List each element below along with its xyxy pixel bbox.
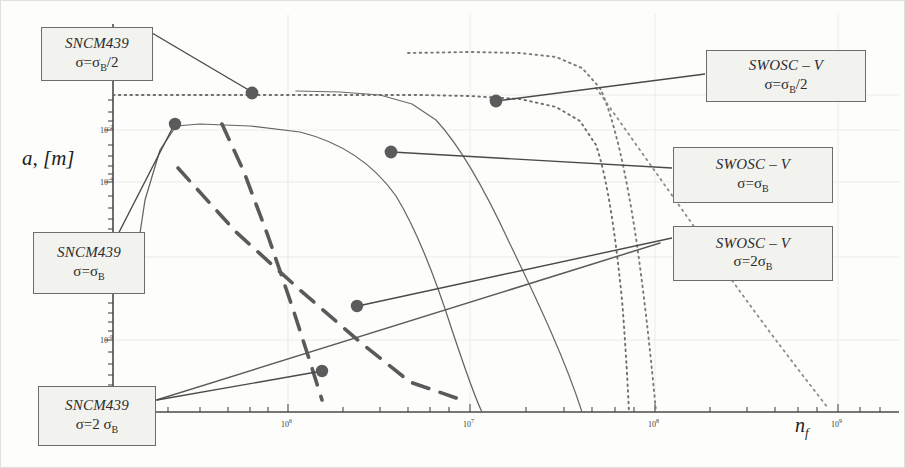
callout-title: SNCM439 bbox=[57, 243, 121, 261]
x-tick-label-1: 106 bbox=[281, 418, 292, 429]
callout-condition: σ=2σB bbox=[734, 252, 773, 273]
curve-dashed-steep bbox=[222, 124, 322, 400]
x-tick-label-2: 107 bbox=[463, 418, 474, 429]
leader-sncm-2 bbox=[157, 371, 322, 400]
callout-sncm439-sigma-b[interactable]: SNCM439 σ=σB bbox=[33, 232, 145, 294]
y-tick-label-3: 10-9 bbox=[100, 334, 113, 345]
callout-sncm439-2sigma-b[interactable]: SNCM439 σ=2 σB bbox=[38, 386, 156, 446]
leader-swosc-2 bbox=[358, 238, 672, 306]
callout-title: SWOSC – V bbox=[716, 155, 790, 173]
callout-title: SNCM439 bbox=[65, 34, 129, 52]
marker-sncm439-1sig bbox=[169, 118, 181, 130]
callout-title: SWOSC – V bbox=[716, 234, 790, 252]
callout-condition: σ=σB bbox=[73, 262, 104, 283]
curve-sncm439-2sig bbox=[150, 243, 660, 402]
curve-swosc-half bbox=[408, 52, 656, 412]
curve-sncm439-1sig bbox=[137, 124, 482, 412]
marker-dashed-point bbox=[316, 365, 328, 377]
callout-swoscv-sigma-half[interactable]: SWOSC – V σ=σB/2 bbox=[706, 50, 866, 102]
callout-sncm439-sigma-half[interactable]: SNCM439 σ=σB/2 bbox=[41, 27, 153, 81]
x-tick-label-3: 108 bbox=[648, 418, 659, 429]
marker-sncm439-2sig bbox=[351, 300, 363, 312]
callout-condition: σ=2 σB bbox=[76, 415, 119, 436]
callout-swoscv-sigma-b[interactable]: SWOSC – V σ=σB bbox=[673, 147, 833, 203]
curve-sncm439-half bbox=[113, 95, 629, 412]
leader-lines bbox=[113, 33, 705, 400]
callout-title: SWOSC – V bbox=[749, 56, 823, 74]
x-axis-ticks bbox=[168, 404, 880, 412]
leader-swosc-half bbox=[496, 74, 705, 101]
marker-sncm439-half bbox=[246, 87, 259, 100]
y-axis-title: a, [m] bbox=[22, 146, 75, 171]
x-tick-label-4: 109 bbox=[831, 418, 842, 429]
leader-sncm-1 bbox=[113, 125, 174, 244]
y-tick-label-2: 10-4 bbox=[100, 176, 113, 187]
marker-swosc-half bbox=[490, 95, 503, 108]
leader-swosc-1 bbox=[392, 152, 672, 168]
callout-title: SNCM439 bbox=[65, 396, 129, 414]
y-tick-label-1: 10-2 bbox=[100, 124, 113, 135]
callout-swoscv-2sigma-b[interactable]: SWOSC – V σ=2σB bbox=[673, 226, 833, 281]
callout-condition: σ=σB/2 bbox=[765, 75, 808, 96]
x-axis-title: nf bbox=[795, 414, 809, 441]
callout-condition: σ=σB bbox=[737, 174, 768, 195]
figure-root: 10-2 10-4 10-9 106 107 108 109 a, [m] nf… bbox=[0, 0, 905, 468]
leader-sncm-half bbox=[152, 33, 252, 92]
callout-condition: σ=σB/2 bbox=[76, 53, 119, 74]
curve-swosc-1sig bbox=[296, 91, 582, 412]
marker-swosc-1sig bbox=[385, 146, 398, 159]
